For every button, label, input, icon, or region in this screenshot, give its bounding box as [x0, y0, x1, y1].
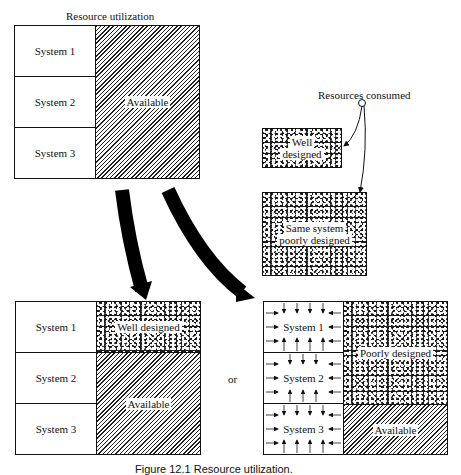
pointer-to-poor [360, 106, 365, 192]
pressure-arrows [266, 303, 341, 453]
pointer-to-well [344, 106, 362, 146]
big-arrow-right-head [236, 283, 255, 302]
resources-consumed-origin [359, 100, 366, 107]
big-arrow-left [122, 190, 142, 290]
big-arrow-right [168, 190, 242, 292]
figure-caption: Figure 12.1 Resource utilization. [135, 463, 293, 475]
